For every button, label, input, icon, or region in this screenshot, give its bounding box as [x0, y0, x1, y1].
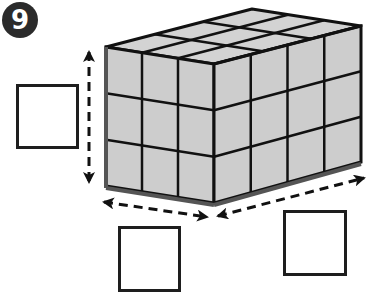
width-arrow [104, 202, 207, 217]
length-answer-box[interactable] [283, 210, 347, 276]
front-face [106, 47, 214, 203]
height-answer-box[interactable] [16, 84, 79, 149]
width-answer-box[interactable] [118, 226, 181, 292]
